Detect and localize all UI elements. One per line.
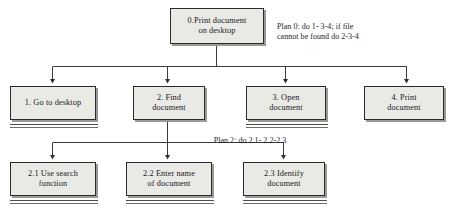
- terminal-rule-task-2-3: [243, 200, 327, 204]
- task-box-1-go-to-desktop[interactable]: 1. Go to desktop: [10, 86, 96, 120]
- task-box-2-3-identify-document[interactable]: 2.3 Identify document: [243, 162, 325, 196]
- task-box-4-print-document[interactable]: 4. Print document: [364, 86, 444, 120]
- task-label-2-3: 2.3 Identify document: [264, 169, 304, 188]
- plan-2-text: Plan 2: do 2.1- 2.2-2.3: [214, 136, 287, 145]
- task-box-0-print-document-on-desktop[interactable]: 0.Print document on desktop: [170, 8, 264, 44]
- task-label-4: 4. Print document: [387, 93, 421, 112]
- task-label-1: 1. Go to desktop: [25, 98, 81, 107]
- task-box-3-open-document[interactable]: 3. Open document: [246, 86, 326, 120]
- task-box-2-2-enter-name-of-document[interactable]: 2.2 Enter name of document: [126, 162, 212, 196]
- plan-note-plan-2: Plan 2: do 2.1- 2.2-2.3: [175, 125, 325, 146]
- plan-0-text: Plan 0: do 1- 3-4; if file cannot be fou…: [277, 22, 359, 42]
- task-label-2: 2. Find document: [152, 93, 186, 112]
- plan-note-plan-0: Plan 0: do 1- 3-4; if file cannot be fou…: [277, 11, 447, 43]
- task-box-2-1-use-search-function[interactable]: 2.1 Use search function: [10, 162, 96, 196]
- task-label-2-1: 2.1 Use search function: [28, 169, 78, 188]
- terminal-rule-task-2-1: [10, 200, 98, 204]
- task-label-2-2: 2.2 Enter name of document: [143, 169, 195, 188]
- hta-diagram: 0.Print document on desktop Plan 0: do 1…: [0, 0, 453, 211]
- task-label-0: 0.Print document on desktop: [188, 16, 247, 35]
- task-label-3: 3. Open document: [269, 93, 303, 112]
- terminal-rule-task-1: [10, 124, 98, 128]
- task-box-2-find-document[interactable]: 2. Find document: [133, 86, 205, 120]
- terminal-rule-task-2-2: [126, 200, 214, 204]
